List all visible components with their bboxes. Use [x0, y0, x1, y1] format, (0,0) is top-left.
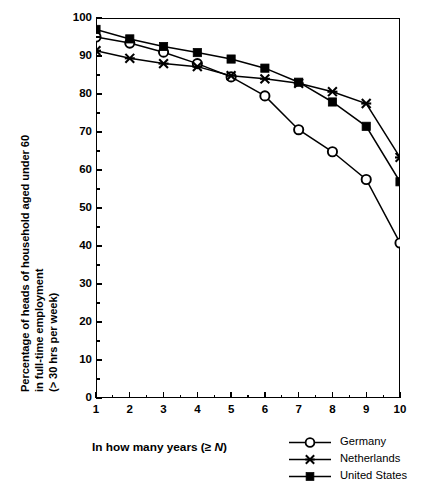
x-axis-minor-tick	[281, 395, 282, 399]
y-axis-tick-label: 60	[62, 163, 92, 175]
y-axis-tick	[96, 207, 102, 208]
x-axis-tick-label: 9	[352, 403, 380, 415]
data-point-marker-filled-square	[306, 473, 314, 481]
data-point-marker-filled-square	[126, 35, 134, 43]
data-point-marker-open-circle	[294, 125, 303, 134]
x-axis-tick-label: 8	[318, 403, 346, 415]
data-point-marker-filled-square	[396, 178, 400, 186]
x-axis-tick-label: 2	[116, 403, 144, 415]
legend-label: Germany	[340, 435, 386, 447]
y-axis-tick-label: 70	[62, 125, 92, 137]
legend-item: United States	[288, 468, 418, 485]
y-axis-tick-label: 0	[62, 391, 92, 403]
y-axis-tick-label: 80	[62, 87, 92, 99]
data-point-marker-open-circle	[306, 438, 315, 447]
x-axis-tick	[264, 392, 265, 398]
y-axis-label-line-1: Percentage of heads of household aged un…	[19, 135, 31, 392]
y-axis-label-line-3: (> 30 hrs per week)	[47, 293, 59, 392]
x-axis-label-variable: N	[215, 440, 224, 454]
y-axis-minor-tick	[96, 188, 100, 189]
y-axis-label-line-2: in full-time employment	[33, 269, 45, 392]
series-line-netherlands	[96, 51, 400, 158]
x-axis-label-text: In how many years (≥	[92, 440, 215, 454]
y-axis-tick-label: 100	[62, 11, 92, 23]
data-series-layer	[96, 18, 400, 398]
y-axis-tick	[96, 93, 102, 94]
legend-item: Netherlands	[288, 451, 418, 468]
x-axis-tick	[129, 392, 130, 398]
y-axis-tick-label: 20	[62, 315, 92, 327]
chart-legend: GermanyNetherlandsUnited States	[288, 434, 418, 485]
y-axis-minor-tick	[96, 302, 100, 303]
x-axis-tick-label: 1	[82, 403, 110, 415]
x-axis-tick-label: 10	[386, 403, 414, 415]
chart-figure: Percentage of heads of household aged un…	[0, 0, 423, 489]
series-line-united-states	[96, 29, 400, 181]
data-point-marker-open-circle	[328, 147, 337, 156]
x-axis-tick	[230, 392, 231, 398]
x-axis-minor-tick	[180, 395, 181, 399]
y-axis-tick	[96, 17, 102, 18]
series-line-germany	[96, 37, 400, 243]
data-point-marker-cross	[361, 99, 371, 108]
x-axis-tick-label: 3	[150, 403, 178, 415]
x-axis-tick	[95, 392, 96, 398]
x-axis-minor-tick	[214, 395, 215, 399]
data-point-marker-cross	[395, 153, 400, 162]
data-point-marker-filled-square	[193, 48, 201, 56]
y-axis-tick-label: 90	[62, 49, 92, 61]
legend-marker-cross	[288, 451, 332, 468]
y-axis-tick	[96, 245, 102, 246]
y-axis-tick	[96, 169, 102, 170]
y-axis-tick	[96, 283, 102, 284]
y-axis-minor-tick	[96, 36, 100, 37]
data-point-marker-cross	[125, 54, 135, 63]
x-axis-tick	[197, 392, 198, 398]
data-point-marker-open-circle	[260, 91, 269, 100]
x-axis-tick-label: 4	[183, 403, 211, 415]
data-point-marker-filled-square	[159, 42, 167, 50]
x-axis-tick-label: 6	[251, 403, 279, 415]
y-axis-minor-tick	[96, 340, 100, 341]
y-axis-minor-tick	[96, 74, 100, 75]
legend-label: Netherlands	[340, 452, 400, 464]
y-axis-tick	[96, 321, 102, 322]
data-point-marker-filled-square	[227, 55, 235, 63]
y-axis-minor-tick	[96, 150, 100, 151]
y-axis-tick-label: 40	[62, 239, 92, 251]
data-point-marker-cross	[159, 59, 169, 68]
y-axis-tick-label: 10	[62, 353, 92, 365]
data-point-marker-filled-square	[362, 122, 370, 130]
data-point-marker-cross	[327, 87, 337, 96]
x-axis-minor-tick	[112, 395, 113, 399]
y-axis-tick-label: 50	[62, 201, 92, 213]
y-axis-minor-tick	[96, 226, 100, 227]
x-axis-tick-labels: 12345678910	[96, 403, 400, 423]
y-axis-tick	[96, 359, 102, 360]
y-axis-minor-tick	[96, 378, 100, 379]
x-axis-tick	[399, 392, 400, 398]
y-axis-tick-label: 30	[62, 277, 92, 289]
data-point-marker-open-circle	[395, 238, 400, 247]
legend-marker-filled-square	[288, 468, 332, 485]
data-point-marker-filled-square	[96, 25, 100, 33]
data-point-marker-cross	[260, 74, 270, 83]
plot-area	[96, 18, 400, 398]
data-point-marker-filled-square	[295, 78, 303, 86]
x-axis-minor-tick	[146, 395, 147, 399]
data-point-marker-filled-square	[328, 98, 336, 106]
x-axis-tick	[298, 392, 299, 398]
x-axis-minor-tick	[247, 395, 248, 399]
x-axis-tick	[163, 392, 164, 398]
y-axis-tick-labels: 0102030405060708090100	[60, 18, 92, 398]
data-point-marker-open-circle	[362, 175, 371, 184]
x-axis-label-suffix: )	[223, 440, 227, 454]
x-axis-minor-tick	[349, 395, 350, 399]
y-axis-minor-tick	[96, 264, 100, 265]
x-axis-tick-label: 5	[217, 403, 245, 415]
x-axis-minor-tick	[315, 395, 316, 399]
x-axis-minor-tick	[383, 395, 384, 399]
y-axis-tick	[96, 131, 102, 132]
y-axis-minor-tick	[96, 112, 100, 113]
x-axis-tick	[366, 392, 367, 398]
